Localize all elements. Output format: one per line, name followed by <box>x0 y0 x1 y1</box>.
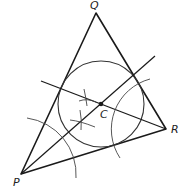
diagram-canvas: Q P R C <box>0 0 183 191</box>
angle-bisector-r <box>41 81 166 129</box>
vertex-label-q: Q <box>90 0 99 11</box>
intersection-mark-upper <box>79 89 96 106</box>
construction-arc-p <box>27 118 76 178</box>
vertex-label-r: R <box>171 124 179 135</box>
angle-bisector-p <box>21 56 155 174</box>
center-label-c: C <box>100 109 108 120</box>
construction-arc-r <box>111 79 150 158</box>
incenter-point <box>99 102 104 107</box>
construction-figure <box>0 0 183 191</box>
vertex-label-p: P <box>13 177 20 188</box>
triangle-pqr <box>21 13 166 174</box>
